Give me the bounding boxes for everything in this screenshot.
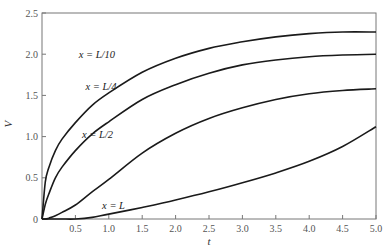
x-tick-label: 3.5 bbox=[270, 223, 283, 234]
y-tick-label: 2.0 bbox=[26, 49, 39, 60]
curve-label: x = L/10 bbox=[78, 49, 116, 60]
line-chart: 0.51.01.52.02.53.03.54.04.55.000.51.01.5… bbox=[0, 0, 387, 250]
x-tick-label: 4.0 bbox=[303, 223, 316, 234]
curve-label: x = L/4 bbox=[84, 81, 117, 92]
curve-label: x = L/2 bbox=[81, 129, 114, 140]
y-tick-label: 1.5 bbox=[26, 90, 39, 101]
y-tick-label: 2.5 bbox=[26, 8, 39, 19]
x-tick-label: 1.0 bbox=[103, 223, 116, 234]
plot-frame bbox=[42, 13, 376, 219]
x-tick-label: 5.0 bbox=[370, 223, 383, 234]
curve-label: x = L bbox=[101, 200, 125, 211]
x-tick-label: 3.0 bbox=[236, 223, 249, 234]
x-tick-label: 2.5 bbox=[203, 223, 216, 234]
curve-4 bbox=[42, 127, 376, 219]
x-tick-label: 0.5 bbox=[69, 223, 82, 234]
y-tick-label: 0 bbox=[33, 214, 38, 225]
y-axis-label: V bbox=[2, 119, 14, 127]
y-tick-label: 1.0 bbox=[26, 131, 39, 142]
x-tick-label: 4.5 bbox=[336, 223, 349, 234]
x-tick-label: 1.5 bbox=[136, 223, 149, 234]
curve-labels: x = L/10x = L/4x = L/2x = L bbox=[78, 49, 125, 211]
plot-area bbox=[42, 13, 376, 219]
y-tick-label: 0.5 bbox=[26, 172, 39, 183]
x-axis-label: t bbox=[207, 235, 211, 247]
x-tick-label: 2.0 bbox=[169, 223, 182, 234]
